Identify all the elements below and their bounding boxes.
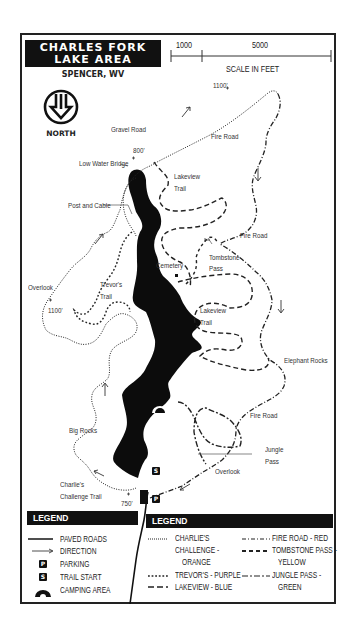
label-fire-road-3: Fire Road (250, 411, 277, 421)
trevors-trail (74, 232, 132, 324)
label-lakeview-trail-1-l1: Lakeview (174, 172, 200, 182)
title-line-1: CHARLES FORK (25, 42, 161, 54)
scale-tick-1000: 1000 (176, 40, 192, 50)
scale-label: SCALE IN FEET (226, 64, 279, 74)
label-fire-road-2: Fire Road (240, 231, 267, 241)
label-low-water-bridge: Low Water Bridge (79, 159, 128, 169)
legend-right-header: LEGEND (146, 514, 333, 528)
arrow-icon (102, 383, 108, 396)
label-lakeview-trail-2-l1: Lakeview (200, 306, 226, 316)
scale-bar (171, 50, 331, 62)
trail-start-icon: S (39, 573, 47, 581)
label-overlook-2: Overlook (215, 467, 240, 477)
legend-tombstone-l1: TOMBSTONE PASS - (272, 545, 337, 556)
map-title: CHARLES FORK LAKE AREA (25, 40, 161, 67)
cemetery-marker (175, 274, 178, 277)
label-lakeview-trail-2-l2: Trail (200, 318, 212, 328)
legend-fire-road: FIRE ROAD - RED (272, 533, 328, 544)
parking-icon: P (152, 495, 160, 503)
label-trevors-trail-l1: Trevor's (100, 280, 122, 290)
label-elevation-800: 800' (133, 146, 145, 156)
legend-parking: PARKING (60, 559, 89, 570)
arrow-icon (182, 107, 190, 117)
north-label: NORTH (38, 129, 84, 138)
legend-camping-area: CAMPING AREA (60, 585, 110, 596)
parking-icon: P (39, 560, 47, 568)
title-line-2: LAKE AREA (25, 54, 161, 66)
parking-lot (140, 490, 148, 504)
label-tombstone-pass-l2: Pass (209, 264, 223, 274)
label-big-rocks: Big Rocks (69, 426, 97, 436)
label-tombstone-pass-l1: Tombstone (209, 253, 240, 263)
legend-direction: DIRECTION (60, 546, 96, 557)
scale-tick-5000: 5000 (252, 40, 268, 50)
paved-road (130, 492, 148, 604)
label-lakeview-trail-1-l2: Trail (174, 184, 186, 194)
arrow-icon (255, 168, 261, 181)
label-jungle-pass-l1: Jungle (265, 445, 283, 455)
legend-trail-start: TRAIL START (60, 572, 102, 583)
legend-lakeview: LAKEVIEW - BLUE (175, 582, 232, 593)
legend-jungle-l2: GREEN (278, 582, 302, 593)
north-arrow-icon (45, 91, 77, 123)
legend-charlies-l3: ORANGE (182, 557, 211, 568)
label-trevors-trail-l2: Trail (100, 292, 112, 302)
legend-charlies-l2: CHALLENGE - (175, 545, 219, 556)
label-fire-road-1: Fire Road (211, 132, 238, 142)
label-elephant-rocks: Elephant Rocks (284, 356, 328, 366)
arrow-icon (95, 234, 103, 244)
label-elevation-1100-top: 1100' (213, 81, 228, 91)
lake (113, 169, 202, 478)
arrow-icon (180, 484, 190, 490)
label-overlook-1: Overlook (28, 283, 53, 293)
label-post-and-cable: Post and Cable (68, 201, 111, 211)
arrow-icon (94, 470, 104, 476)
jungle-pass-trail (178, 402, 241, 464)
legend-paved-roads: PAVED ROADS (60, 534, 107, 545)
label-jungle-pass-l2: Pass (265, 457, 279, 467)
legend-charlies-l1: CHARLIE'S (175, 533, 209, 544)
label-charlies-challenge-l1: Charlie's (60, 480, 84, 490)
legend-trevors: TREVOR'S - PURPLE (175, 570, 241, 581)
label-cemetery: Cemetery (156, 261, 183, 271)
legend-left-header: LEGEND (27, 511, 138, 525)
label-elevation-1100-left: 1100' (48, 306, 63, 316)
arrow-icon (278, 300, 284, 313)
label-gravel-road: Gravel Road (111, 125, 146, 135)
label-charlies-challenge-l2: Challenge Trail (60, 492, 102, 502)
map-subtitle: SPENCER, WV (25, 70, 161, 79)
legend-jungle-l1: JUNGLE PASS - (272, 570, 321, 581)
legend-tombstone-l2: YELLOW (278, 557, 306, 568)
label-elevation-750: 750' (121, 499, 133, 509)
trail-start-icon: S (152, 467, 160, 475)
